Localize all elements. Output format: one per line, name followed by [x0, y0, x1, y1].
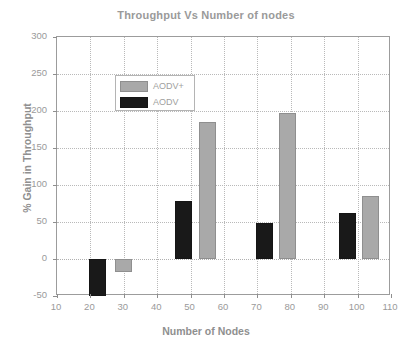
gridline-horizontal: [57, 148, 389, 149]
x-tick-mark: [124, 294, 125, 298]
gridline-vertical: [224, 37, 225, 294]
bar: [199, 122, 216, 259]
x-tick-mark: [57, 294, 58, 298]
bar: [339, 213, 356, 259]
x-tick-mark: [157, 294, 158, 298]
y-axis-title: % Gain in Throughput: [21, 73, 33, 243]
x-tick-mark: [257, 294, 258, 298]
x-tick-mark: [90, 294, 91, 298]
gridline-horizontal: [57, 111, 389, 112]
x-tick-mark: [191, 294, 192, 298]
x-tick-label: 70: [240, 301, 272, 312]
gridline-vertical: [324, 37, 325, 294]
x-tick-mark: [291, 294, 292, 298]
legend-item[interactable]: AODV+: [120, 79, 194, 93]
bar: [89, 259, 106, 296]
bar: [362, 196, 379, 259]
x-tick-label: 50: [174, 301, 206, 312]
bar: [256, 223, 273, 259]
chart-title: Throughput Vs Number of nodes: [0, 9, 412, 21]
legend-label: AODV+: [153, 81, 184, 91]
legend-swatch-icon: [120, 81, 148, 92]
y-tick-mark: [53, 111, 57, 112]
x-tick-label: 40: [140, 301, 172, 312]
legend-swatch-icon: [120, 97, 148, 108]
x-tick-mark: [358, 294, 359, 298]
x-tick-label: 30: [107, 301, 139, 312]
x-tick-label: 10: [40, 301, 72, 312]
y-tick-label: 0: [0, 252, 47, 263]
gridline-horizontal: [57, 185, 389, 186]
y-tick-mark: [53, 222, 57, 223]
y-tick-mark: [53, 185, 57, 186]
x-tick-mark: [391, 294, 392, 298]
legend-label: AODV: [153, 97, 179, 107]
x-tick-label: 90: [307, 301, 339, 312]
x-tick-label: 60: [207, 301, 239, 312]
legend-item[interactable]: AODV: [120, 95, 194, 109]
bar: [115, 259, 132, 272]
y-tick-label: 300: [0, 30, 47, 41]
y-tick-label: -50: [0, 289, 47, 300]
x-axis-title: Number of Nodes: [0, 325, 412, 337]
chart-legend[interactable]: AODV+AODV: [115, 75, 195, 111]
plot-area: AODV+AODV: [56, 36, 390, 295]
y-tick-mark: [53, 37, 57, 38]
gridline-horizontal: [57, 74, 389, 75]
bar: [279, 113, 296, 259]
gridline-vertical: [358, 37, 359, 294]
x-tick-mark: [224, 294, 225, 298]
x-tick-mark: [324, 294, 325, 298]
zero-baseline: [57, 259, 389, 260]
bar: [175, 201, 192, 259]
chart-figure: Throughput Vs Number of nodes AODV+AODV …: [0, 0, 412, 358]
x-tick-label: 80: [274, 301, 306, 312]
y-tick-mark: [53, 74, 57, 75]
x-tick-label: 110: [374, 301, 406, 312]
y-tick-mark: [53, 148, 57, 149]
gridline-vertical: [90, 37, 91, 294]
x-tick-label: 100: [341, 301, 373, 312]
x-tick-label: 20: [73, 301, 105, 312]
y-tick-mark: [53, 259, 57, 260]
